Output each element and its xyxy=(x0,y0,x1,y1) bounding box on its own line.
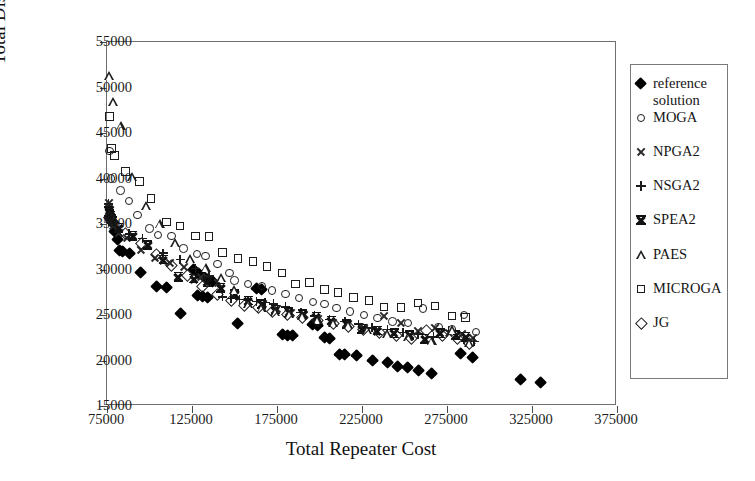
legend-label: MICROGA xyxy=(653,280,721,297)
legend-box: referencesolutionMOGANPGA2NSGA2SPEA2PAES… xyxy=(630,64,728,379)
legend-label-line2: solution xyxy=(653,92,700,109)
x-axis-title: Total Repeater Cost xyxy=(106,438,616,460)
legend-label: MOGA xyxy=(653,109,697,126)
x-axis-tick-label: 175000 xyxy=(231,412,321,427)
x-axis-tick-label: 275000 xyxy=(401,412,491,427)
x-axis-tick-label: 325000 xyxy=(486,412,576,427)
y-axis-title: Total Distance Cost xyxy=(0,0,10,120)
legend-label: reference xyxy=(653,75,707,92)
legend-label: SPEA2 xyxy=(653,211,696,228)
y-axis-tick-label: 40000 xyxy=(62,171,132,186)
y-axis-tick-label: 30000 xyxy=(62,262,132,277)
data-points-layer xyxy=(107,42,615,404)
y-axis-tick-label: 45000 xyxy=(62,125,132,140)
x-axis-tick-label: 125000 xyxy=(146,412,236,427)
chart-canvas: Total Distance Cost Total Repeater Cost … xyxy=(0,0,755,481)
plot-area xyxy=(106,41,616,405)
legend-label: JG xyxy=(653,314,669,331)
x-axis-tick-label: 375000 xyxy=(571,412,661,427)
legend-label: NSGA2 xyxy=(653,177,700,194)
y-axis-tick-label: 20000 xyxy=(62,353,132,368)
y-axis-tick-label: 35000 xyxy=(62,216,132,231)
x-axis-tick-label: 75000 xyxy=(61,412,151,427)
legend-label: PAES xyxy=(653,246,687,263)
x-axis-tick-label: 225000 xyxy=(316,412,406,427)
y-axis-tick-label: 50000 xyxy=(62,80,132,95)
y-axis-tick-label: 55000 xyxy=(62,34,132,49)
y-axis-tick-label: 25000 xyxy=(62,307,132,322)
legend-label: NPGA2 xyxy=(653,143,700,160)
